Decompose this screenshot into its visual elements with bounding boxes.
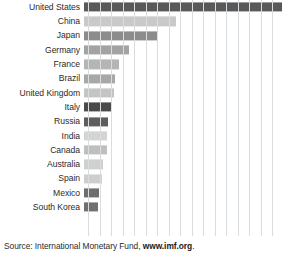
source-url: www.imf.org bbox=[143, 241, 192, 251]
bar-track bbox=[84, 186, 282, 200]
chart-row: Canada bbox=[0, 143, 282, 157]
chart-row: France bbox=[0, 57, 282, 71]
source-prefix: Source: International Monetary Fund, bbox=[4, 241, 143, 251]
bar-japan bbox=[84, 31, 158, 40]
category-label: Japan bbox=[0, 31, 84, 40]
bar-track bbox=[84, 86, 282, 100]
bar-united-states bbox=[84, 3, 282, 12]
bar-canada bbox=[84, 146, 107, 155]
category-label: Mexico bbox=[0, 189, 84, 198]
chart-row: Mexico bbox=[0, 186, 282, 200]
bar-india bbox=[84, 131, 107, 140]
chart-row: Australia bbox=[0, 157, 282, 171]
chart-row: Italy bbox=[0, 100, 282, 114]
bar-track bbox=[84, 43, 282, 57]
source-suffix: . bbox=[192, 241, 194, 251]
chart-row: Spain bbox=[0, 172, 282, 186]
bar-united-kingdom bbox=[84, 88, 114, 97]
bar-track bbox=[84, 57, 282, 71]
bar-track bbox=[84, 143, 282, 157]
category-label: Spain bbox=[0, 174, 84, 183]
chart-row: South Korea bbox=[0, 200, 282, 214]
chart-row: United States bbox=[0, 0, 282, 14]
chart-row: Brazil bbox=[0, 71, 282, 85]
chart-row: Germany bbox=[0, 43, 282, 57]
chart-row: United Kingdom bbox=[0, 86, 282, 100]
bar-brazil bbox=[84, 74, 115, 83]
chart-row: Japan bbox=[0, 29, 282, 43]
bar-track bbox=[84, 172, 282, 186]
category-label: France bbox=[0, 60, 84, 69]
category-label: Canada bbox=[0, 146, 84, 155]
category-label: United States bbox=[0, 3, 84, 12]
bar-spain bbox=[84, 174, 102, 183]
bar-china bbox=[84, 17, 176, 26]
category-label: Australia bbox=[0, 160, 84, 169]
bar-russia bbox=[84, 117, 108, 126]
category-label: Russia bbox=[0, 117, 84, 126]
category-label: Germany bbox=[0, 46, 84, 55]
gdp-bar-chart: United States China Japan Germany France bbox=[0, 0, 282, 260]
bar-mexico bbox=[84, 188, 99, 197]
chart-row: China bbox=[0, 14, 282, 28]
bar-track bbox=[84, 114, 282, 128]
bar-track bbox=[84, 129, 282, 143]
bar-track bbox=[84, 100, 282, 114]
category-label: South Korea bbox=[0, 203, 84, 212]
category-label: India bbox=[0, 132, 84, 141]
bar-track bbox=[84, 29, 282, 43]
category-label: United Kingdom bbox=[0, 89, 84, 98]
bar-track bbox=[84, 0, 282, 14]
chart-row: Russia bbox=[0, 114, 282, 128]
category-label: China bbox=[0, 17, 84, 26]
bar-france bbox=[84, 60, 119, 69]
category-label: Brazil bbox=[0, 74, 84, 83]
bar-south-korea bbox=[84, 203, 98, 212]
bar-australia bbox=[84, 160, 103, 169]
chart-plot-area: United States China Japan Germany France bbox=[0, 0, 282, 236]
bar-track bbox=[84, 157, 282, 171]
source-note: Source: International Monetary Fund, www… bbox=[4, 241, 194, 251]
bar-germany bbox=[84, 45, 129, 54]
bar-italy bbox=[84, 103, 112, 112]
bar-track bbox=[84, 71, 282, 85]
category-label: Italy bbox=[0, 103, 84, 112]
chart-row: India bbox=[0, 129, 282, 143]
bar-track bbox=[84, 14, 282, 28]
bar-track bbox=[84, 200, 282, 214]
